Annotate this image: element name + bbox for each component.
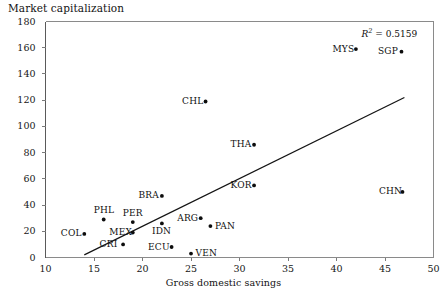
- point-label-per: PER: [123, 208, 143, 218]
- point-label-phl: PHL: [94, 205, 114, 215]
- y-tick-label: 140: [10, 68, 36, 79]
- point-label-sgp: SGP: [378, 46, 398, 56]
- data-point-marker: [170, 245, 174, 249]
- point-label-kor: KOR: [231, 180, 252, 190]
- point-label-bra: BRA: [138, 190, 159, 200]
- x-tick-label: 45: [370, 263, 400, 274]
- x-axis-title: Gross domestic savings: [0, 277, 447, 288]
- point-label-mys: MYS: [332, 44, 354, 54]
- data-point-marker: [160, 194, 164, 198]
- point-label-ven: VEN: [196, 248, 218, 258]
- x-tick-label: 25: [176, 263, 206, 274]
- point-label-tha: THA: [231, 139, 252, 149]
- point-label-mex: MEX: [109, 227, 132, 237]
- y-tick-label: 40: [10, 199, 36, 210]
- tick-marks: [42, 48, 385, 261]
- plot-area-svg: [0, 0, 447, 295]
- data-point-marker: [160, 222, 164, 226]
- point-label-pan: PAN: [215, 221, 235, 231]
- y-tick-label: 0: [10, 252, 36, 263]
- x-tick-label: 35: [273, 263, 303, 274]
- point-label-chl: CHL: [182, 96, 203, 106]
- r-squared-annotation: R2 = 0.5159: [362, 27, 418, 39]
- y-tick-label: 160: [10, 42, 36, 53]
- x-tick-label: 20: [128, 263, 158, 274]
- data-point-marker: [252, 183, 256, 187]
- x-tick-label: 40: [322, 263, 352, 274]
- data-points: [82, 47, 404, 255]
- point-label-idn: IDN: [152, 226, 171, 236]
- point-label-cri: CRI: [100, 239, 118, 249]
- point-label-col: COL: [61, 228, 82, 238]
- x-tick-label: 50: [419, 263, 447, 274]
- data-point-marker: [354, 47, 358, 51]
- y-tick-label: 20: [10, 225, 36, 236]
- x-tick-label: 30: [225, 263, 255, 274]
- data-point-marker: [121, 242, 125, 246]
- data-point-marker: [189, 252, 193, 256]
- data-point-marker: [199, 216, 203, 220]
- point-label-chn: CHN: [379, 186, 402, 196]
- y-tick-label: 100: [10, 120, 36, 131]
- y-tick-label: 60: [10, 173, 36, 184]
- y-tick-label: 80: [10, 147, 36, 158]
- scatter-chart-figure: Market capitalization 020406080100120140…: [0, 0, 447, 295]
- y-tick-label: 120: [10, 94, 36, 105]
- x-tick-label: 15: [79, 263, 109, 274]
- data-point-marker: [209, 224, 213, 228]
- data-point-marker: [82, 232, 86, 236]
- data-point-marker: [102, 218, 106, 222]
- data-point-marker: [204, 100, 208, 104]
- x-tick-label: 10: [31, 263, 61, 274]
- point-label-arg: ARG: [177, 213, 198, 223]
- y-tick-label: 180: [10, 16, 36, 27]
- point-label-ecu: ECU: [148, 242, 170, 252]
- data-point-marker: [252, 143, 256, 147]
- data-point-marker: [400, 50, 404, 54]
- data-point-marker: [131, 220, 135, 224]
